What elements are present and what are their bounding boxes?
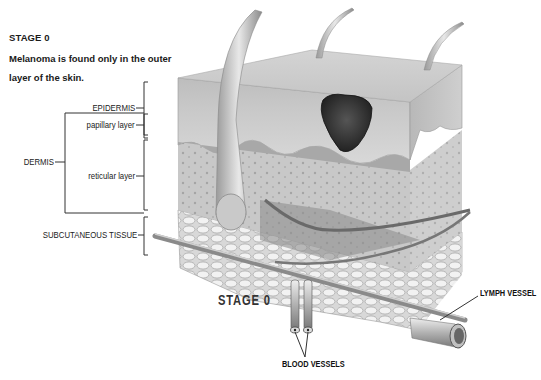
label-dermis: DERMIS (24, 156, 54, 167)
label-blood-vessels: BLOOD VESSELS (282, 359, 345, 369)
label-subcutaneous-tissue: SUBCUTANEOUS TISSUE (42, 229, 137, 240)
skin-cross-section-illustration (0, 0, 541, 380)
label-papillary-layer: papillary layer (87, 119, 135, 130)
label-epidermis: EPIDERMIS (92, 102, 135, 113)
stage-caption: STAGE 0 (218, 292, 271, 308)
label-reticular-layer: reticular layer (88, 170, 135, 181)
label-lymph-vessel: LYMPH VESSEL (480, 288, 536, 298)
